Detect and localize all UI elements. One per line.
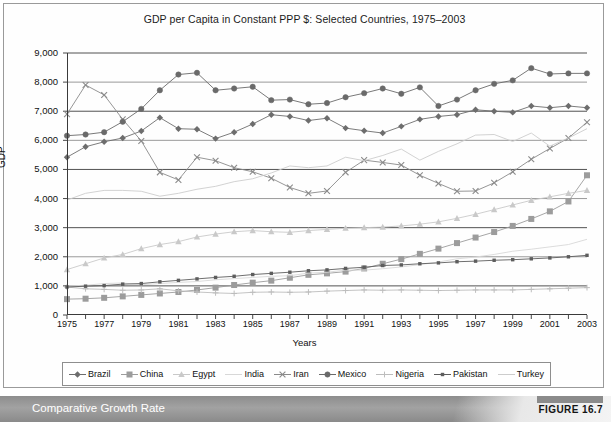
- legend-marker-brazil-icon: [69, 369, 86, 380]
- figure-page: GDP per Capita in Constant PPP $: Select…: [0, 0, 611, 428]
- grid-lines: [67, 53, 587, 286]
- legend-label: China: [140, 369, 164, 379]
- data-series-layer: [64, 65, 590, 302]
- legend-item-turkey[interactable]: Turkey: [498, 369, 544, 380]
- figure-footer: Comparative Growth Rate FIGURE 16.7: [0, 396, 611, 422]
- figure-number-tab: [537, 396, 603, 403]
- legend-marker-iran-icon: [274, 369, 291, 380]
- legend-marker-mexico-icon: [319, 369, 336, 380]
- legend-label: Brazil: [88, 369, 111, 379]
- legend-item-india[interactable]: India: [225, 369, 264, 380]
- chart-legend[interactable]: BrazilChinaEgyptIndiaIranMexicoNigeriaPa…: [62, 362, 551, 386]
- legend-marker-china-icon: [121, 369, 138, 380]
- legend-marker-egypt-icon: [173, 369, 190, 380]
- legend-label: Nigeria: [395, 369, 424, 379]
- legend-label: Pakistan: [453, 369, 488, 379]
- axis-ticks: [63, 53, 587, 319]
- legend-marker-nigeria-icon: [376, 369, 393, 380]
- legend-item-egypt[interactable]: Egypt: [173, 369, 215, 380]
- series-iran: [64, 82, 590, 196]
- legend-item-china[interactable]: China: [121, 369, 164, 380]
- legend-item-mexico[interactable]: Mexico: [319, 369, 367, 380]
- legend-label: Egypt: [192, 369, 215, 379]
- figure-number-label: FIGURE 16.7: [539, 404, 603, 415]
- figure-caption: Comparative Growth Rate: [32, 402, 165, 414]
- legend-marker-india-icon: [225, 369, 242, 380]
- plot-canvas: [4, 4, 605, 389]
- legend-item-iran[interactable]: Iran: [274, 369, 309, 380]
- legend-label: India: [244, 369, 264, 379]
- series-mexico: [64, 65, 589, 138]
- legend-marker-pakistan-icon: [434, 369, 451, 380]
- legend-item-pakistan[interactable]: Pakistan: [434, 369, 488, 380]
- legend-marker-turkey-icon: [498, 369, 515, 380]
- series-turkey: [67, 129, 587, 200]
- series-pakistan: [65, 254, 588, 289]
- legend-label: Turkey: [517, 369, 544, 379]
- legend-label: Mexico: [338, 369, 367, 379]
- legend-item-brazil[interactable]: Brazil: [69, 369, 111, 380]
- legend-item-nigeria[interactable]: Nigeria: [376, 369, 424, 380]
- series-india: [67, 239, 587, 286]
- legend-label: Iran: [293, 369, 309, 379]
- chart-card: GDP per Capita in Constant PPP $: Select…: [3, 3, 604, 388]
